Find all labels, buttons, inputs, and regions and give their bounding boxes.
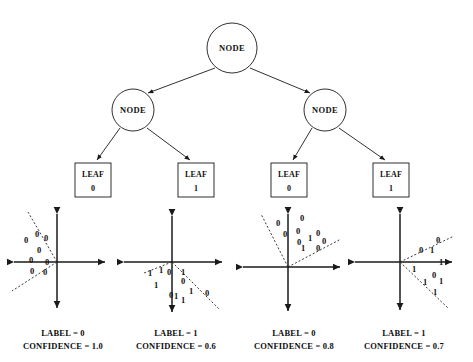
scatter-panel-0: 0 0 0 0 0 0 0 0: [12, 212, 105, 308]
data-point: 1: [301, 243, 305, 253]
edge-right-node-to-leaf-1: [339, 128, 385, 160]
tree-leaf-1[interactable]: LEAF 1: [178, 163, 214, 197]
scatter-panel-3: 0 0 1 1 1 0 1 1 1: [355, 214, 454, 310]
data-point: 0: [316, 228, 320, 238]
data-point: 0: [29, 255, 33, 265]
scatter-panel-2: 0 0 0 0 0 1 0 0 1 0: [243, 213, 341, 311]
tree-leaf-3[interactable]: LEAF 1: [373, 163, 409, 197]
caption-0: LABEL = 0 CONFIDENCE = 1.0: [23, 328, 103, 351]
data-point: 0: [45, 257, 49, 267]
data-point: 1: [174, 291, 178, 301]
caption-3: LABEL = 1 CONFIDENCE = 0.7: [364, 328, 445, 351]
data-point: 0: [169, 290, 173, 300]
panel-3-boundary-a: [400, 236, 454, 262]
right-node-label: NODE: [312, 105, 338, 115]
scatter-panel-1: 1 1 0 1 0 1 0 1 1 1 0: [124, 216, 222, 312]
panel-1-boundary-b: [172, 262, 220, 310]
caption-1-label: LABEL = 1: [154, 328, 198, 338]
caption-3-label: LABEL = 1: [382, 328, 426, 338]
decision-tree-figure: NODE NODE NODE LEAF 0 LEAF 1 LEAF 0: [0, 0, 473, 362]
panel-2-points: 0 0 0 0 0 1 0 0 1 0: [276, 213, 326, 253]
data-point: 1: [159, 265, 163, 275]
data-point: 0: [322, 236, 326, 246]
data-point: 0: [24, 235, 28, 245]
leaf-3-title: LEAF: [380, 170, 402, 179]
root-node-label: NODE: [219, 43, 245, 53]
data-point: 0: [316, 243, 320, 253]
leaf-1-value: 1: [194, 184, 198, 193]
edge-root-to-right-node: [250, 68, 310, 93]
data-point: 1: [154, 280, 158, 290]
data-point: 0: [276, 218, 280, 228]
tree-leaf-2[interactable]: LEAF 0: [271, 163, 307, 197]
caption-1: LABEL = 1 CONFIDENCE = 0.6: [136, 328, 216, 351]
panel-2-boundary-a: [261, 214, 288, 267]
data-point: 0: [167, 267, 171, 277]
panel-0-points: 0 0 0 0 0 0 0 0: [24, 229, 49, 277]
data-point: 0: [205, 288, 209, 298]
data-point: 0: [35, 229, 39, 239]
data-point: 0: [296, 226, 300, 236]
data-point: 1: [423, 277, 427, 287]
data-point: 1: [181, 295, 185, 305]
figure-canvas: NODE NODE NODE LEAF 0 LEAF 1 LEAF 0: [0, 0, 473, 362]
data-point: 0: [283, 229, 287, 239]
tree-node-root[interactable]: NODE: [207, 23, 257, 73]
tree-node-left[interactable]: NODE: [112, 89, 154, 131]
leaf-3-value: 1: [389, 184, 393, 193]
data-point: 1: [189, 286, 193, 296]
data-point: 0: [44, 233, 48, 243]
data-point: 0: [419, 245, 423, 255]
caption-0-label: LABEL = 0: [41, 328, 85, 338]
caption-2-label: LABEL = 0: [272, 328, 316, 338]
leaf-0-title: LEAF: [82, 170, 104, 179]
data-point: 0: [181, 276, 185, 286]
data-point: 1: [433, 287, 437, 297]
caption-1-confidence: CONFIDENCE = 0.6: [136, 341, 216, 351]
data-point: 1: [148, 268, 152, 278]
tree-node-right[interactable]: NODE: [304, 89, 346, 131]
edge-left-node-to-leaf-1: [147, 128, 190, 160]
leaf-1-title: LEAF: [185, 170, 207, 179]
panel-0-boundary-b: [12, 262, 57, 291]
left-node-label: NODE: [120, 105, 146, 115]
edge-right-node-to-leaf-0: [293, 128, 312, 160]
data-point: 1: [439, 257, 443, 267]
tree-leaf-0[interactable]: LEAF 0: [75, 163, 111, 197]
data-point: 0: [37, 245, 41, 255]
data-point: 0: [43, 267, 47, 277]
caption-0-confidence: CONFIDENCE = 1.0: [23, 341, 103, 351]
leaf-0-value: 0: [91, 184, 95, 193]
data-point: 0: [300, 213, 304, 223]
panel-2-boundary-b: [288, 239, 341, 267]
data-point: 0: [30, 266, 34, 276]
edge-root-to-left-node: [148, 68, 215, 93]
caption-2-confidence: CONFIDENCE = 0.8: [254, 341, 334, 351]
edge-left-node-to-leaf-0: [97, 128, 120, 160]
data-point: 1: [308, 233, 312, 243]
data-point: 0: [436, 235, 440, 245]
leaf-2-value: 0: [287, 184, 291, 193]
caption-3-confidence: CONFIDENCE = 0.7: [364, 341, 445, 351]
panel-3-points: 0 0 1 1 1 0 1 1 1: [412, 235, 443, 297]
caption-2: LABEL = 0 CONFIDENCE = 0.8: [254, 328, 334, 351]
leaf-2-title: LEAF: [278, 170, 300, 179]
data-point: 1: [430, 245, 434, 255]
data-point: 1: [439, 276, 443, 286]
panel-1-points: 1 1 0 1 0 1 0 1 1 1 0: [148, 265, 209, 305]
data-point: 1: [412, 264, 416, 274]
data-point: 0: [432, 270, 436, 280]
